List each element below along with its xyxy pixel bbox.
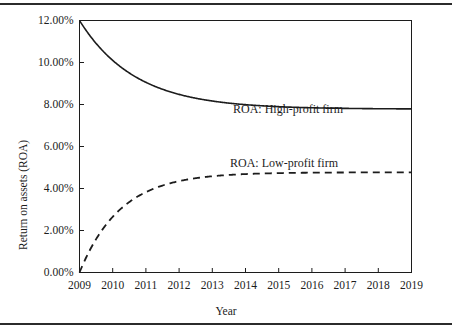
series-line-low-profit xyxy=(80,172,412,272)
y-tick-label: 0.00% xyxy=(18,267,74,279)
axes-frame xyxy=(80,21,412,273)
x-axis-title-text: Year xyxy=(215,305,236,317)
x-tick-label: 2019 xyxy=(392,280,432,292)
y-tick-label: 12.00% xyxy=(18,15,74,27)
y-tick-label: 10.00% xyxy=(18,57,74,69)
x-axis-ticks xyxy=(80,268,412,273)
roa-chart-figure: 0.00%2.00%4.00%6.00%8.00%10.00%12.00% 20… xyxy=(0,0,452,335)
x-axis-title: Year xyxy=(0,306,452,318)
series-label-high-profit: ROA: High-profit firm xyxy=(233,103,343,115)
y-tick-label: 8.00% xyxy=(18,99,74,111)
data-series-lines xyxy=(80,21,412,273)
series-line-high-profit xyxy=(80,21,412,109)
y-axis-title-text: Return on assets (ROA) xyxy=(18,140,30,250)
y-axis-title: Return on assets (ROA) xyxy=(4,92,20,252)
series-label-low-profit: ROA: Low-profit firm xyxy=(230,157,338,169)
y-axis-ticks xyxy=(80,21,85,273)
